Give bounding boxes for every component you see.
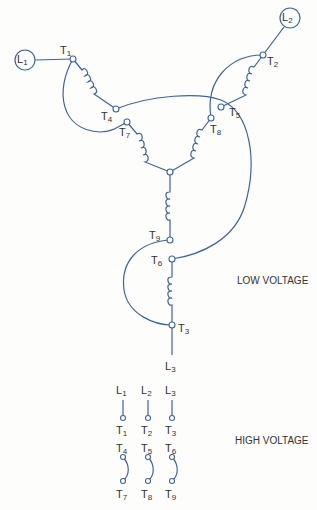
label-t6: T6 bbox=[151, 254, 162, 268]
hv-label-l3: L3 bbox=[165, 384, 176, 398]
label-t5: T5 bbox=[229, 106, 240, 120]
high-voltage-title: HIGH VOLTAGE bbox=[235, 435, 309, 446]
label-t3: T3 bbox=[178, 322, 189, 336]
hv-label-t5: T5 bbox=[141, 442, 152, 456]
label-t4: T4 bbox=[101, 110, 112, 124]
coil-t2-t5 bbox=[221, 55, 263, 107]
label-l1: L1 bbox=[17, 53, 28, 67]
label-t9: T9 bbox=[149, 229, 160, 243]
label-l3: L3 bbox=[165, 360, 176, 374]
low-voltage-title: LOW VOLTAGE bbox=[237, 275, 308, 286]
hv-label-t4: T4 bbox=[116, 442, 127, 456]
coil-t7-center bbox=[127, 122, 170, 172]
jumper-t9-t3 bbox=[123, 240, 172, 325]
coil-center-t9 bbox=[166, 172, 170, 240]
coil-t8-center bbox=[170, 118, 211, 172]
hv-label-t6: T6 bbox=[165, 442, 176, 456]
hv-label-t2: T2 bbox=[141, 424, 152, 438]
hv-label-t9: T9 bbox=[165, 488, 176, 502]
coil-t1-t4 bbox=[73, 59, 116, 109]
hv-label-l2: L2 bbox=[141, 384, 152, 398]
label-t7: T7 bbox=[119, 126, 130, 140]
label-t1: T1 bbox=[60, 44, 71, 58]
jumper-t1-t7 bbox=[63, 59, 127, 132]
label-t2: T2 bbox=[267, 55, 278, 69]
jumper-t4-t5-t6 bbox=[116, 96, 251, 259]
label-t8: T8 bbox=[210, 123, 221, 137]
label-l2: L2 bbox=[282, 11, 293, 25]
hv-label-t7: T7 bbox=[116, 488, 127, 502]
coil-t6-t3 bbox=[168, 259, 172, 325]
hv-label-t3: T3 bbox=[165, 424, 176, 438]
hv-label-t1: T1 bbox=[116, 424, 127, 438]
hv-label-t8: T8 bbox=[141, 488, 152, 502]
hv-label-l1: L1 bbox=[116, 384, 127, 398]
